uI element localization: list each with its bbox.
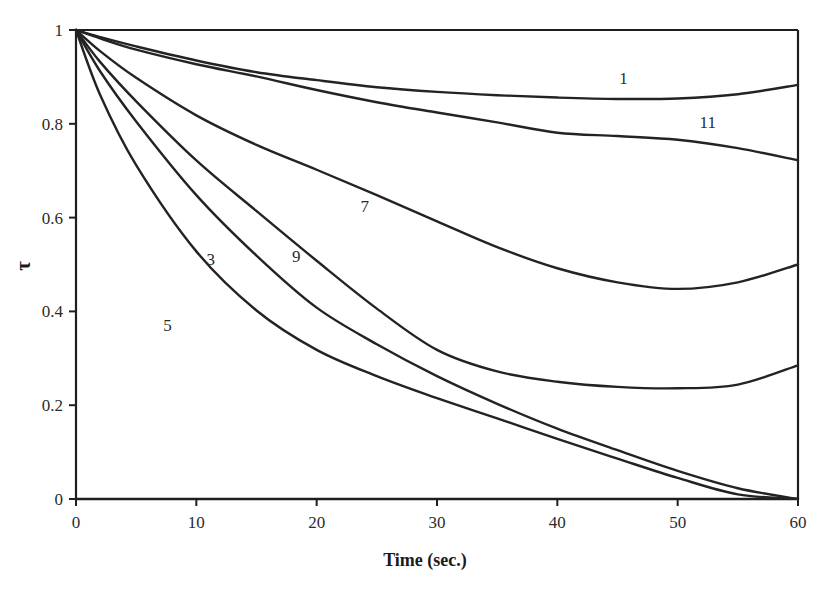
y-tick-label: 1 bbox=[55, 21, 64, 40]
y-tick-label: 0.6 bbox=[42, 209, 63, 228]
curve-label-3: 3 bbox=[207, 250, 216, 269]
data-curve-3 bbox=[76, 30, 798, 499]
y-axis-tick-labels: 00.20.40.60.81 bbox=[42, 21, 64, 509]
chart-canvas: 0102030405060 00.20.40.60.81 1117935 Tim… bbox=[0, 0, 829, 590]
x-tick-label: 30 bbox=[429, 513, 446, 532]
curve-label-11: 11 bbox=[700, 113, 716, 132]
y-tick-label: 0.2 bbox=[42, 396, 63, 415]
x-tick-label: 20 bbox=[308, 513, 325, 532]
plot-frame bbox=[76, 30, 798, 499]
curve-label-9: 9 bbox=[292, 247, 301, 266]
data-curve-1 bbox=[76, 30, 798, 99]
x-tick-label: 10 bbox=[188, 513, 205, 532]
data-curve-5 bbox=[76, 30, 798, 499]
x-tick-label: 50 bbox=[669, 513, 686, 532]
y-axis-title: τ bbox=[11, 261, 35, 271]
y-tick-label: 0.4 bbox=[42, 302, 64, 321]
data-curve-9 bbox=[76, 30, 798, 388]
chart-figure: 0102030405060 00.20.40.60.81 1117935 Tim… bbox=[0, 0, 829, 590]
y-tick-label: 0 bbox=[55, 490, 64, 509]
data-series-group bbox=[76, 30, 798, 499]
x-axis-title: Time (sec.) bbox=[383, 550, 467, 571]
x-tick-label: 60 bbox=[790, 513, 807, 532]
y-tick-label: 0.8 bbox=[42, 115, 63, 134]
curve-label-1: 1 bbox=[619, 69, 628, 88]
data-curve-7 bbox=[76, 30, 798, 289]
curve-label-7: 7 bbox=[361, 197, 370, 216]
curve-label-5: 5 bbox=[163, 316, 172, 335]
data-curve-11 bbox=[76, 30, 798, 160]
x-tick-label: 0 bbox=[72, 513, 81, 532]
x-axis-tick-labels: 0102030405060 bbox=[72, 513, 807, 532]
x-tick-label: 40 bbox=[549, 513, 566, 532]
